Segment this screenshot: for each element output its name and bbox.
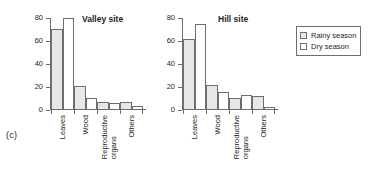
x-axis-label-line: Reproductive — [232, 115, 241, 159]
x-tick-cell — [74, 110, 97, 114]
bar — [63, 18, 75, 109]
bar — [264, 107, 276, 109]
bar — [132, 106, 144, 109]
x-axis-label: Wood — [213, 115, 222, 134]
y-tick-label: 40 — [167, 59, 175, 69]
y-tick-label: 20 — [167, 82, 175, 92]
x-tick — [142, 110, 143, 114]
x-label-cell: Others — [252, 115, 275, 171]
y-tick-label: 60 — [167, 36, 175, 46]
plot-area: 020406080 LeavesWoodReproductiveorgansOt… — [50, 18, 142, 110]
y-tick: 40 — [178, 64, 182, 65]
y-tick-label: 0 — [39, 105, 43, 115]
y-tick-label: 20 — [35, 82, 43, 92]
legend-swatch-rainy-icon — [300, 32, 307, 39]
x-label-cell: Leaves — [51, 115, 74, 171]
y-tick: 0 — [178, 110, 182, 111]
bar — [97, 102, 109, 109]
legend-item-dry-season: Dry season — [300, 41, 356, 52]
y-tick-label: 80 — [167, 13, 175, 23]
x-tick — [74, 110, 75, 114]
bar — [120, 102, 132, 109]
x-label-cell: Reproductiveorgans — [97, 115, 120, 171]
x-axis-label: Wood — [81, 115, 90, 134]
figure-panel-c: (c) Valley site 020406080 LeavesWoodRepr… — [0, 0, 372, 171]
x-tick — [120, 110, 121, 114]
x-axis-label: Reproductiveorgans — [232, 115, 249, 159]
x-label-cell: Leaves — [183, 115, 206, 171]
y-tick: 20 — [46, 87, 50, 88]
legend-item-rainy-season: Rainy season — [300, 30, 356, 41]
y-tick-label: 60 — [35, 36, 43, 46]
bar — [206, 85, 218, 109]
bar — [241, 95, 253, 109]
x-axis-label: Leaves — [190, 115, 199, 139]
y-tick-label: 80 — [35, 13, 43, 23]
bar — [183, 39, 195, 109]
x-tick-cell — [120, 110, 143, 114]
chart-hill-site: Hill site 020406080 LeavesWoodReproducti… — [160, 10, 286, 170]
x-axis-label-line: Reproductive — [100, 115, 109, 159]
x-tick-cell — [183, 110, 206, 114]
x-axis-label: Others — [127, 115, 136, 138]
x-tick-cell — [252, 110, 275, 114]
x-tick-cell — [229, 110, 252, 114]
bar-group — [97, 17, 120, 109]
bar — [74, 86, 86, 109]
y-tick: 40 — [46, 64, 50, 65]
x-label-cell: Others — [120, 115, 143, 171]
bar-group — [252, 17, 275, 109]
legend-swatch-dry-icon — [300, 43, 307, 50]
bar-group — [74, 17, 97, 109]
x-tick — [206, 110, 207, 114]
x-label-group: LeavesWoodReproductiveorgansOthers — [183, 115, 275, 171]
x-axis-label-line: organs — [109, 115, 118, 159]
bar-group-container — [183, 17, 275, 109]
plot-area: 020406080 LeavesWoodReproductiveorgansOt… — [182, 18, 274, 110]
bar — [229, 98, 241, 110]
bar — [195, 24, 207, 109]
x-tick-cell — [206, 110, 229, 114]
x-axis-label-line: organs — [241, 115, 250, 159]
legend: Rainy season Dry season — [296, 26, 361, 56]
x-label-group: LeavesWoodReproductiveorgansOthers — [51, 115, 143, 171]
bar-group-container — [51, 17, 143, 109]
y-tick: 60 — [46, 41, 50, 42]
x-tick-cell — [97, 110, 120, 114]
x-tick — [252, 110, 253, 114]
x-axis-label: Reproductiveorgans — [100, 115, 117, 159]
y-tick: 60 — [178, 41, 182, 42]
y-tick-label: 0 — [171, 105, 175, 115]
chart-valley-site: Valley site 020406080 LeavesWoodReproduc… — [28, 10, 154, 170]
bar-group — [229, 17, 252, 109]
bar — [86, 98, 98, 110]
bar-group — [183, 17, 206, 109]
x-tick — [274, 110, 275, 114]
legend-label: Rainy season — [311, 31, 356, 40]
y-tick-label: 40 — [35, 59, 43, 69]
y-tick: 80 — [46, 18, 50, 19]
x-tick-group — [51, 110, 143, 114]
x-label-cell: Wood — [206, 115, 229, 171]
x-tick — [97, 110, 98, 114]
bar-group — [120, 17, 143, 109]
bar — [51, 29, 63, 110]
x-label-cell: Wood — [74, 115, 97, 171]
y-tick: 80 — [178, 18, 182, 19]
x-label-cell: Reproductiveorgans — [229, 115, 252, 171]
bar-group — [206, 17, 229, 109]
x-axis-label: Leaves — [58, 115, 67, 139]
x-tick-cell — [51, 110, 74, 114]
x-tick — [183, 110, 184, 114]
x-axis-label: Others — [259, 115, 268, 138]
x-tick — [51, 110, 52, 114]
legend-label: Dry season — [311, 42, 349, 51]
y-tick: 0 — [46, 110, 50, 111]
panel-letter: (c) — [6, 130, 17, 140]
y-tick: 20 — [178, 87, 182, 88]
bar — [252, 96, 264, 109]
bar — [109, 103, 121, 109]
bar — [218, 92, 230, 109]
x-tick — [229, 110, 230, 114]
bar-group — [51, 17, 74, 109]
